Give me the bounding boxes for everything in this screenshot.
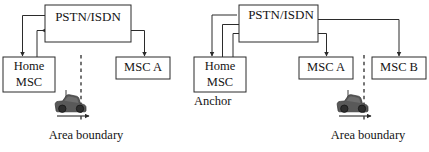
car-icon-right <box>337 90 368 112</box>
link-pstn-to-home-msc-left <box>23 16 46 57</box>
anchor-caption-right: Anchor <box>194 94 232 108</box>
link-pstn-to-msc-b-right <box>318 20 399 57</box>
node-msc-a-right-label: MSC A <box>307 60 345 74</box>
figure-roaming-handoff-diagram: PSTN/ISDN Home MSC MSC A Area boundary <box>0 0 429 152</box>
node-pstn-isdn-left-label: PSTN/ISDN <box>55 9 121 24</box>
node-home-msc-left-label-line1: Home <box>14 59 45 73</box>
diagram-canvas: PSTN/ISDN Home MSC MSC A Area boundary <box>0 0 429 152</box>
node-pstn-isdn-right-label: PSTN/ISDN <box>248 7 314 22</box>
panel-left: PSTN/ISDN Home MSC MSC A Area boundary <box>3 5 170 142</box>
car-icon-left <box>55 90 86 112</box>
link-pstn-to-msc-a-right <box>318 34 327 57</box>
node-home-msc-right-label-line1: Home <box>205 59 236 73</box>
node-home-msc-right-label-line2: MSC <box>207 75 233 89</box>
node-msc-a-left-label: MSC A <box>124 60 162 74</box>
node-home-msc-left-label-line2: MSC <box>16 75 42 89</box>
area-boundary-caption-left: Area boundary <box>49 128 124 142</box>
link-pstn-to-msc-a-left <box>131 31 145 57</box>
node-msc-b-right-label: MSC B <box>380 60 418 74</box>
area-boundary-caption-right: Area boundary <box>331 128 406 142</box>
link-home-msc-riser-left <box>37 31 44 59</box>
panel-right: PSTN/ISDN Home MSC Anchor MSC A MSC B <box>194 5 426 142</box>
